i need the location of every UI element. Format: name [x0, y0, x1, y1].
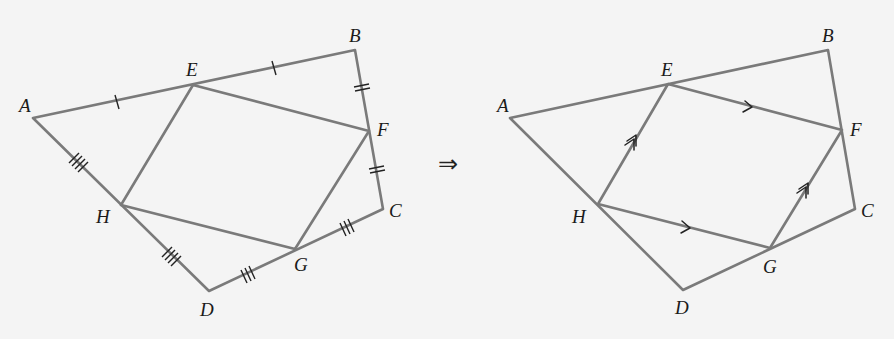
label-f: F — [376, 119, 389, 140]
quadrilateral-abcd — [510, 50, 855, 290]
label-h: H — [571, 206, 587, 227]
left-diagram: A B C D E F G H — [17, 25, 402, 320]
label-a: A — [495, 95, 509, 116]
label-d: D — [199, 299, 214, 320]
label-e: E — [660, 59, 673, 80]
label-c: C — [861, 200, 874, 221]
label-b: B — [349, 25, 361, 46]
right-diagram: A B C D E F G H — [495, 25, 874, 318]
label-g: G — [763, 256, 777, 277]
label-b: B — [822, 25, 834, 46]
parallelogram-efgh — [598, 84, 842, 248]
implies-symbol: ⇒ — [438, 150, 458, 178]
midpoint-parallelogram-figure: A B C D E F G H ⇒ A B C D — [0, 0, 894, 339]
label-g: G — [294, 254, 308, 275]
label-d: D — [674, 297, 689, 318]
parallel-arrow-ef — [743, 101, 752, 112]
quadrilateral-efgh — [121, 85, 369, 249]
label-a: A — [17, 95, 31, 116]
label-c: C — [389, 200, 402, 221]
label-e: E — [185, 59, 198, 80]
label-f: F — [849, 119, 862, 140]
quadrilateral-abcd — [33, 50, 383, 291]
label-h: H — [95, 206, 111, 227]
